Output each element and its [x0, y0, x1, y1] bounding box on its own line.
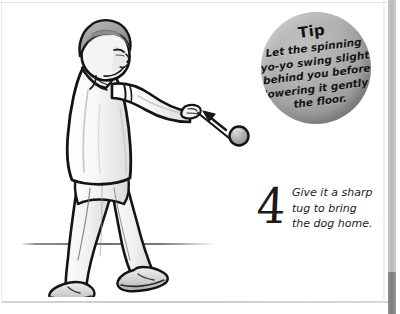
tip-bubble-content: Tip Let the spinning yo-yo swing slightl…: [261, 12, 371, 124]
step-line-3: the dog home.: [292, 216, 392, 232]
step-block: 4 Give it a sharp tug to bring the dog h…: [258, 182, 388, 242]
page-edge-bottom: [2, 301, 388, 303]
page-edge-right-strip-lower: [388, 272, 396, 314]
page-edge-left: [1, 0, 2, 302]
illustration-page: Tip Let the spinning yo-yo swing slightl…: [0, 0, 400, 314]
page-edge-right-strip: [388, 0, 396, 302]
step-number: 4: [256, 182, 293, 231]
page-edge-top: [0, 2, 392, 3]
step-line-1: Give it a sharp: [292, 185, 392, 201]
step-text: Give it a sharp tug to bring the dog hom…: [292, 185, 392, 232]
tip-bubble: Tip Let the spinning yo-yo swing slightl…: [261, 12, 371, 124]
step-line-2: tug to bring: [292, 201, 392, 217]
page-edge-right-inner: [383, 0, 385, 300]
boy-with-yoyo-illustration: [38, 12, 253, 297]
